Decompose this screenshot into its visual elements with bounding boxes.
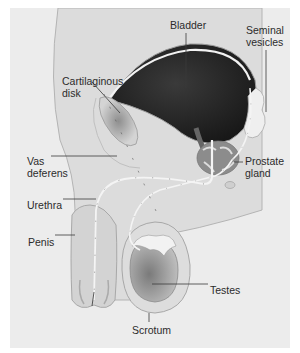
label-penis: Penis [28, 236, 54, 248]
prostate-shape [197, 141, 239, 175]
label-vas-deferens: Vas deferens [27, 155, 68, 179]
label-prostate-gland: Prostate gland [245, 155, 284, 179]
label-bladder: Bladder [170, 19, 206, 31]
label-scrotum: Scrotum [132, 324, 171, 336]
label-seminal-vesicles: Seminal vesicles [246, 24, 284, 48]
label-urethra: Urethra [27, 199, 62, 211]
label-cartilaginous-disk: Cartilaginous disk [62, 75, 123, 99]
anatomy-diagram: Bladder Seminal vesicles Cartilaginous d… [10, 8, 290, 348]
label-testes: Testes [210, 284, 240, 296]
